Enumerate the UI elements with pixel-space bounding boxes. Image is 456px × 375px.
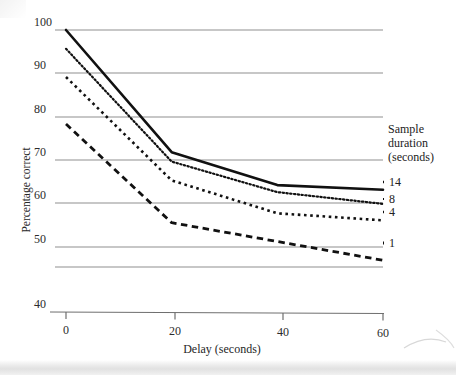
scan-corner-artifact bbox=[0, 0, 26, 18]
page-curl-artifact bbox=[404, 339, 446, 348]
legend-item-14[interactable]: 14 bbox=[383, 175, 401, 189]
y-tick-label-90: 90 bbox=[34, 58, 46, 72]
y-axis-title: Percentage correct bbox=[20, 147, 33, 233]
scan-shadow-band bbox=[0, 360, 456, 375]
x-tick-label-0: 0 bbox=[63, 323, 69, 337]
series-line-8 bbox=[66, 49, 383, 204]
x-axis-line bbox=[50, 312, 384, 314]
y-tick-label-40: 40 bbox=[34, 297, 46, 311]
legend-item-8[interactable]: 8 bbox=[383, 192, 395, 206]
legend-label-4: 4 bbox=[389, 205, 395, 219]
series-line-1 bbox=[66, 124, 383, 260]
y-tick-label-70: 70 bbox=[34, 145, 46, 159]
y-tick-label-60: 60 bbox=[34, 188, 46, 202]
y-tick-label-100: 100 bbox=[34, 15, 52, 29]
legend-item-1[interactable]: 1 bbox=[383, 236, 395, 250]
x-tick-label-40: 40 bbox=[277, 325, 289, 339]
legend-title-line-1: Sample bbox=[388, 122, 424, 136]
page-curl-artifact-2 bbox=[436, 330, 454, 348]
legend-item-4[interactable]: 4 bbox=[383, 205, 395, 219]
x-tick-label-20: 20 bbox=[169, 324, 181, 338]
x-tick-label-60: 60 bbox=[377, 326, 389, 340]
figure-container: 100 90 80 70 60 50 40 0 20 40 60 Percent… bbox=[0, 0, 456, 375]
line-chart: 100 90 80 70 60 50 40 0 20 40 60 Percent… bbox=[0, 0, 456, 375]
y-tick-label-50: 50 bbox=[34, 232, 46, 246]
legend-title-line-2: duration bbox=[388, 136, 428, 150]
series-line-14 bbox=[66, 30, 383, 190]
legend-title-line-3: (seconds) bbox=[388, 150, 434, 164]
x-axis-title: Delay (seconds) bbox=[183, 342, 261, 356]
legend-label-8: 8 bbox=[389, 192, 395, 206]
y-tick-label-80: 80 bbox=[34, 102, 46, 116]
legend: Sample duration (seconds) 14 8 4 1 bbox=[383, 122, 434, 250]
legend-label-14: 14 bbox=[389, 175, 401, 189]
legend-label-1: 1 bbox=[389, 236, 395, 250]
x-axis bbox=[50, 312, 384, 321]
